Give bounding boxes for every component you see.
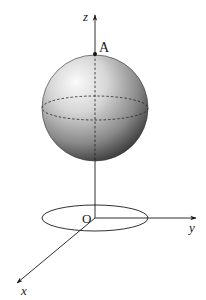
point-a-label: A	[99, 40, 110, 55]
sphere-axes-diagram: z A O y x	[0, 0, 206, 300]
x-axis	[17, 218, 95, 283]
x-axis-label: x	[20, 283, 27, 298]
y-axis-label: y	[187, 220, 195, 235]
point-a-dot	[93, 52, 97, 56]
origin-label: O	[82, 211, 91, 226]
z-axis-label: z	[82, 9, 88, 24]
